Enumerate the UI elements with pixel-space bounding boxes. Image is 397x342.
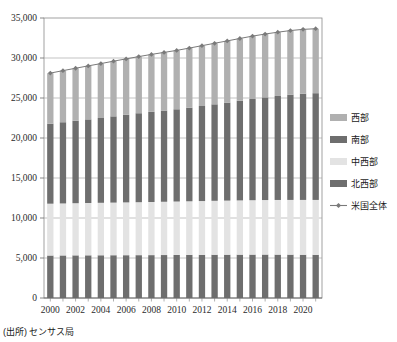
bar-stack — [174, 50, 180, 298]
bar-segment-西部 — [60, 71, 66, 123]
bar-segment-北西部 — [313, 255, 319, 298]
bar-stack — [262, 34, 268, 298]
legend-swatch — [330, 158, 347, 165]
legend-item-南部[interactable]: 南部 — [330, 134, 369, 145]
bar-segment-南部 — [186, 108, 192, 202]
bar-segment-中西部 — [136, 202, 142, 255]
legend-label: 北西部 — [351, 178, 378, 189]
bar-stack — [47, 73, 53, 298]
legend-item-中西部[interactable]: 中西部 — [330, 156, 378, 167]
y-axis-tick-label: 30,000 — [11, 53, 37, 63]
bar-segment-西部 — [313, 29, 319, 93]
bar-segment-西部 — [300, 29, 306, 93]
bar-segment-北西部 — [174, 255, 180, 298]
x-axis-tick-label: 2018 — [268, 305, 287, 315]
bar-segment-中西部 — [110, 203, 116, 256]
y-axis-tick-label: 15,000 — [11, 173, 37, 183]
bar-segment-北西部 — [148, 255, 154, 298]
bar-segment-南部 — [224, 103, 230, 201]
bar-segment-南部 — [275, 96, 281, 200]
bar-segment-北西部 — [60, 255, 66, 298]
bar-stack — [186, 48, 192, 298]
x-axis-tick-label: 2006 — [117, 305, 136, 315]
bar-segment-南部 — [60, 122, 66, 203]
bar-segment-南部 — [148, 112, 154, 202]
legend-label: 南部 — [351, 134, 369, 145]
bar-segment-西部 — [148, 54, 154, 111]
x-axis-tick-label: 2014 — [218, 305, 237, 315]
bar-stack — [148, 54, 154, 298]
bar-segment-南部 — [249, 99, 255, 200]
bar-segment-北西部 — [72, 255, 78, 298]
bar-stack — [300, 29, 306, 298]
bar-segment-北西部 — [47, 256, 53, 298]
bar-stack — [60, 71, 66, 298]
bar-stack — [136, 57, 142, 298]
legend-item-北西部[interactable]: 北西部 — [330, 178, 378, 189]
bar-segment-中西部 — [224, 201, 230, 255]
legend-swatch — [330, 180, 347, 187]
bar-segment-西部 — [174, 50, 180, 109]
y-axis-tick-label: 25,000 — [11, 93, 37, 103]
bar-segment-西部 — [186, 48, 192, 108]
bar-stack — [313, 29, 319, 298]
bar-segment-西部 — [161, 52, 167, 110]
bar-stack — [161, 52, 167, 298]
bar-segment-中西部 — [60, 203, 66, 255]
x-axis-tick-label: 2012 — [192, 305, 211, 315]
chart-container: 05,00010,00015,00020,00025,00030,00035,0… — [0, 0, 397, 342]
bar-segment-中西部 — [300, 200, 306, 255]
bar-segment-北西部 — [262, 255, 268, 298]
bar-segment-北西部 — [186, 255, 192, 298]
legend-swatch — [330, 136, 347, 143]
bar-segment-中西部 — [47, 204, 53, 256]
legend-swatch — [330, 114, 347, 121]
x-axis-tick-label: 2002 — [66, 305, 85, 315]
bar-segment-北西部 — [211, 255, 217, 298]
bar-segment-南部 — [237, 101, 243, 201]
bar-segment-南部 — [110, 116, 116, 202]
bar-stack — [98, 64, 104, 298]
bar-segment-南部 — [123, 115, 129, 203]
bar-segment-中西部 — [85, 203, 91, 255]
bar-segment-南部 — [287, 95, 293, 200]
bar-segment-北西部 — [161, 255, 167, 298]
bar-segment-中西部 — [72, 203, 78, 255]
bar-segment-北西部 — [98, 255, 104, 298]
bar-stack — [237, 38, 243, 298]
bar-segment-中西部 — [186, 201, 192, 255]
bar-stack — [199, 46, 205, 298]
bar-segment-北西部 — [85, 255, 91, 298]
bar-segment-西部 — [85, 66, 91, 120]
bar-segment-西部 — [211, 43, 217, 104]
x-axis-tick-label: 2016 — [243, 305, 262, 315]
bar-segment-中西部 — [262, 200, 268, 255]
y-axis-tick-label: 35,000 — [11, 13, 37, 23]
bar-segment-西部 — [72, 68, 78, 121]
bar-segment-南部 — [262, 97, 268, 200]
legend-marker-diamond — [336, 203, 341, 208]
y-axis-tick-label: 20,000 — [11, 133, 37, 143]
bar-segment-北西部 — [237, 255, 243, 298]
legend-label: 米国全体 — [351, 200, 387, 211]
bar-stack — [249, 36, 255, 298]
y-axis-tick-label: 0 — [32, 293, 37, 303]
bar-stack — [224, 41, 230, 298]
bar-segment-南部 — [174, 109, 180, 201]
bar-segment-北西部 — [300, 255, 306, 298]
legend-item-西部[interactable]: 西部 — [330, 112, 369, 123]
y-axis-tick-label: 5,000 — [16, 253, 38, 263]
bar-segment-西部 — [199, 46, 205, 106]
x-axis-tick-label: 2008 — [142, 305, 161, 315]
bar-segment-北西部 — [249, 255, 255, 298]
bar-segment-北西部 — [275, 255, 281, 298]
bar-segment-中西部 — [199, 201, 205, 255]
bar-stack — [211, 43, 217, 298]
legend-item-米国全体[interactable]: 米国全体 — [330, 200, 387, 211]
bar-stack — [72, 68, 78, 298]
bar-stack — [123, 59, 129, 298]
bar-segment-北西部 — [110, 255, 116, 298]
bar-segment-南部 — [199, 106, 205, 201]
bar-segment-西部 — [98, 64, 104, 118]
bar-segment-西部 — [123, 59, 129, 115]
